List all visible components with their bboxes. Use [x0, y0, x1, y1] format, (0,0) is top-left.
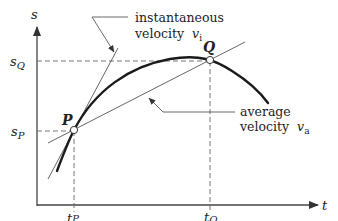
instantaneous-velocity-sub: i: [199, 33, 202, 43]
average-leader: [149, 98, 235, 112]
secant-line: [48, 42, 245, 143]
average-velocity-symbol: v: [297, 119, 304, 134]
position-time-diagram: s t P Q sQ sP tP tQ instantaneous veloci…: [0, 0, 338, 221]
point-Q-label: Q: [203, 39, 215, 55]
instantaneous-leader: [92, 17, 128, 52]
average-velocity-sub: a: [304, 126, 310, 136]
t-axis-label: t: [322, 198, 328, 213]
instantaneous-velocity-word: velocity: [134, 26, 185, 41]
sQ-label: sQ: [10, 54, 25, 71]
average-label-line2: velocity va: [239, 119, 310, 136]
tP-label-sub: P: [71, 213, 79, 221]
tP-label: tP: [67, 211, 79, 221]
sQ-label-sub: Q: [17, 60, 25, 71]
instantaneous-velocity-symbol: v: [192, 26, 199, 41]
instantaneous-label-line2: velocity vi: [134, 26, 202, 43]
sP-label: sP: [11, 124, 25, 141]
position-curve: [57, 57, 268, 171]
average-velocity-word: velocity: [239, 119, 290, 134]
average-label-line1: average: [240, 104, 291, 119]
s-axis-label: s: [31, 7, 38, 22]
tQ-label: tQ: [204, 210, 217, 221]
instantaneous-label-line1: instantaneous: [135, 10, 224, 25]
tQ-label-sub: Q: [209, 214, 217, 221]
point-P-label: P: [61, 112, 73, 128]
point-Q-marker: [206, 56, 213, 63]
sP-label-sub: P: [17, 130, 25, 141]
